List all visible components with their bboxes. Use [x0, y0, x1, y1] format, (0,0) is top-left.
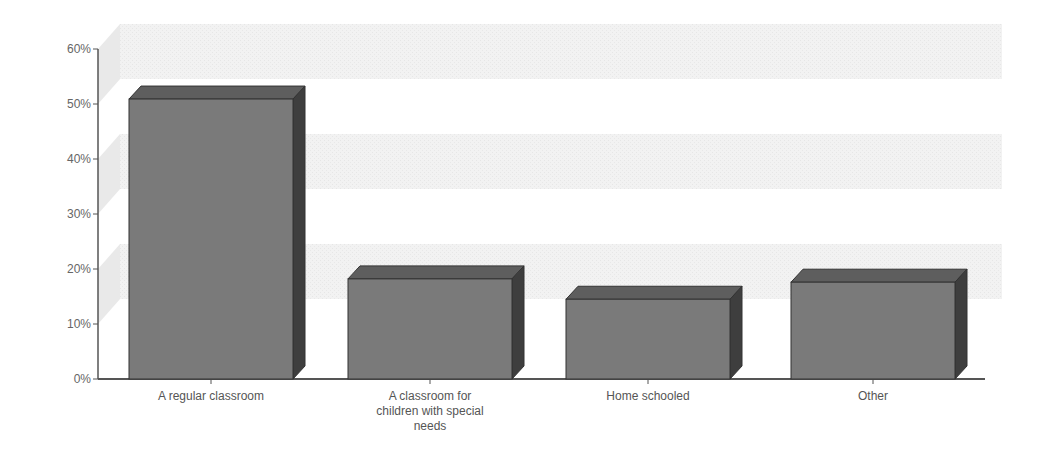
x-tick-label: needs — [414, 419, 447, 433]
y-tick-label: 60% — [67, 42, 91, 56]
x-tick-label: children with special — [376, 404, 483, 418]
y-tick-label: 20% — [67, 262, 91, 276]
y-tick-label: 10% — [67, 317, 91, 331]
x-axis-labels: A regular classroomA classroom forchildr… — [158, 389, 888, 433]
y-tick-label: 30% — [67, 207, 91, 221]
bar-chart: 0%10%20%30%40%50%60% A regular classroom… — [0, 0, 1050, 471]
x-tick-label: A regular classroom — [158, 389, 264, 403]
x-tick-label: Other — [858, 389, 888, 403]
y-tick-label: 0% — [74, 372, 92, 386]
bar — [348, 266, 524, 379]
bars — [129, 86, 967, 379]
bar — [791, 269, 967, 379]
bar — [129, 86, 305, 379]
y-tick-label: 50% — [67, 97, 91, 111]
x-tick-label: A classroom for — [389, 389, 472, 403]
bar — [566, 286, 742, 379]
x-tick-label: Home schooled — [606, 389, 689, 403]
y-axis-labels: 0%10%20%30%40%50%60% — [67, 42, 91, 386]
y-tick-label: 40% — [67, 152, 91, 166]
